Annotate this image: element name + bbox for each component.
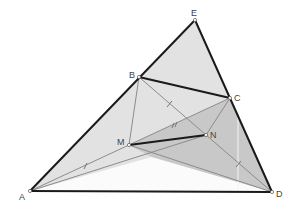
- point-E: [193, 18, 196, 21]
- label-N: N: [210, 130, 217, 140]
- label-D: D: [276, 189, 283, 199]
- point-N: [204, 133, 207, 136]
- point-B: [137, 75, 140, 78]
- geometry-diagram: E B C M N A D: [0, 0, 294, 217]
- segment-AD: [30, 191, 272, 192]
- point-D: [270, 190, 273, 193]
- label-A: A: [19, 192, 25, 202]
- point-C: [228, 96, 231, 99]
- label-E: E: [191, 8, 197, 18]
- label-C: C: [234, 93, 241, 103]
- label-B: B: [129, 70, 135, 80]
- label-M: M: [117, 137, 125, 147]
- point-A: [28, 189, 31, 192]
- point-M: [127, 143, 130, 146]
